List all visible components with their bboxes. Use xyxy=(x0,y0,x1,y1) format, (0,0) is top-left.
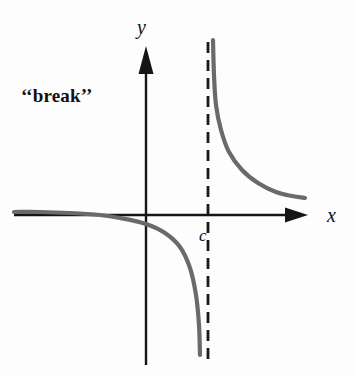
asymptote-label-c: c xyxy=(199,227,207,244)
curve-right-branch xyxy=(213,40,305,198)
graph-canvas xyxy=(0,0,356,377)
curve-left-branch xyxy=(14,212,200,355)
x-axis-label: x xyxy=(327,205,336,225)
break-callout-label: ‘‘break’’ xyxy=(21,86,92,105)
y-axis-label: y xyxy=(137,17,146,37)
figure-container: ‘‘break’’ y x c xyxy=(0,0,356,377)
x-axis-arrow-icon xyxy=(285,208,308,223)
y-axis-arrow-icon xyxy=(139,46,154,74)
